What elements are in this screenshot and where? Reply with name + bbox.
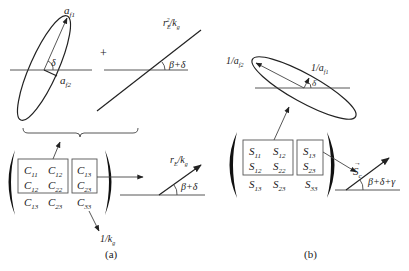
cell-c11: C11: [24, 164, 38, 179]
minor-axis-arrow: [44, 70, 57, 76]
cell-c23b: C23: [48, 196, 63, 211]
compliance-ellipse-b: 1/af2 1/af1 δ: [226, 47, 362, 129]
right-paren: [327, 132, 335, 198]
label-af2: af2: [60, 74, 71, 89]
cell-s33: S33: [305, 178, 318, 193]
cell-s23b: S23: [273, 178, 286, 193]
label-1-kg: 1/kg: [100, 233, 115, 246]
cell-s13: S13: [303, 145, 316, 160]
label-af1: af1: [64, 4, 75, 19]
short-axis-arrow: [304, 78, 309, 88]
stiffness-line: [97, 30, 201, 111]
angle-arc-icon: [162, 62, 165, 70]
label-rE-kg: rE/kg: [170, 154, 188, 167]
label-beta-delta: β+δ: [168, 59, 186, 70]
axis-arrow: [256, 63, 304, 88]
angle-arc-icon: [308, 82, 311, 88]
arrow-to-ellipse: [53, 142, 60, 159]
panel-b: 1/af2 1/af1 δ S11 S12 S12 S22 S13 S23 S1…: [226, 47, 400, 261]
cell-s12: S12: [273, 145, 286, 160]
arrow-to-ellipse: [274, 107, 289, 140]
label-1-af2: 1/af2: [226, 55, 243, 68]
cell-s13b: S13: [249, 178, 262, 193]
left-paren: [230, 132, 238, 198]
cell-s11: S11: [249, 145, 261, 160]
label-delta: δ: [51, 57, 56, 68]
cell-c12: C12: [48, 164, 63, 179]
cell-c23: C23: [77, 179, 92, 194]
panel-a: af1 δ af2 + rE2/kg β+δ C11 C12 C12: [8, 4, 205, 261]
compliance-matrix-a: C11 C12 C12 C22 C13 C23 C13 C23 C33 1/kg: [9, 142, 144, 246]
label-beta-delta-gamma: β+δ+γ: [367, 176, 396, 187]
brace: [23, 128, 138, 137]
compliance-ellipse-a: af1 δ af2: [8, 4, 92, 126]
result-line-b: → Sc β+δ+γ: [335, 158, 400, 190]
line-term-a: rE2/kg β+δ: [97, 17, 201, 111]
cell-c13: C13: [77, 164, 92, 179]
left-paren: [9, 150, 16, 215]
label-1-af1: 1/af1: [311, 62, 328, 75]
angle-arc-icon: [360, 180, 363, 190]
cell-s22: S22: [273, 160, 286, 175]
label-rE2-kg: rE2/kg: [163, 17, 180, 30]
cell-c13b: C13: [24, 196, 39, 211]
result-line-a: rE/kg β+δ: [120, 154, 205, 195]
cell-c33: C33: [77, 196, 92, 211]
arrow-to-vector: [323, 152, 356, 172]
diagram-canvas: af1 δ af2 + rE2/kg β+δ C11 C12 C12: [0, 0, 409, 271]
right-paren: [105, 150, 112, 215]
cell-c22: C22: [48, 179, 63, 194]
caption-b: (b): [304, 248, 317, 261]
cell-c12b: C12: [24, 179, 39, 194]
angle-arc-icon: [174, 185, 177, 195]
cell-s23: S23: [303, 160, 316, 175]
arrow-c33: [89, 211, 99, 231]
caption-a: (a): [105, 248, 118, 261]
ellipse-shape: [8, 10, 80, 126]
label-Sc: Sc: [353, 165, 363, 180]
cell-s12b: S12: [249, 160, 262, 175]
plus-sign: +: [100, 46, 107, 60]
label-beta-delta: β+δ: [180, 181, 198, 192]
compliance-matrix-b: S11 S12 S12 S22 S13 S23 S13 S23 S33: [230, 107, 357, 198]
